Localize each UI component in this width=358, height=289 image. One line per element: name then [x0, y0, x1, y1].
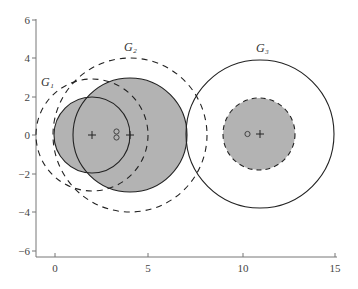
y-tick-label: −2 [18, 168, 30, 180]
x-tick-label: 0 [52, 262, 58, 274]
x-tick-label: 15 [330, 262, 342, 274]
y-tick-label: 4 [25, 52, 31, 64]
y-tick-label: −4 [18, 206, 30, 218]
g1-label: G₁ [41, 75, 54, 89]
y-tick-label: 0 [25, 129, 31, 141]
y-tick-label: 2 [25, 91, 31, 103]
x-ticks [55, 253, 335, 257]
y-tick-label: −6 [18, 245, 30, 257]
g3-label: G₃ [256, 41, 269, 55]
y-ticks [32, 20, 36, 251]
y-tick-label: 6 [25, 14, 31, 26]
x-tick-label: 5 [145, 262, 151, 274]
x-tick-label: 10 [238, 262, 250, 274]
chart: 6 4 2 0 −2 −4 −6 0 5 10 15 G₁ G [0, 0, 358, 289]
g2-label: G₂ [124, 40, 137, 54]
